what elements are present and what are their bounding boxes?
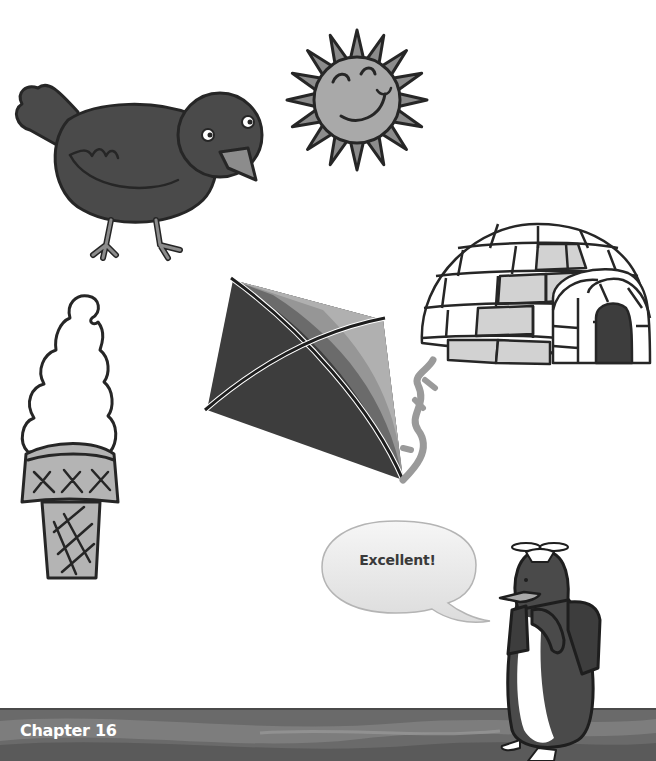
ice-cream-illustration: [14, 292, 126, 582]
bird-illustration: [8, 60, 268, 265]
igloo-illustration: [418, 218, 652, 363]
penguin-illustration: [498, 540, 638, 761]
chapter-label: Chapter 16: [20, 721, 117, 740]
sun-illustration: [285, 22, 430, 172]
speech-bubble: [318, 517, 498, 629]
kite-illustration: [203, 270, 413, 485]
speech-bubble-text: Excellent!: [340, 552, 455, 568]
